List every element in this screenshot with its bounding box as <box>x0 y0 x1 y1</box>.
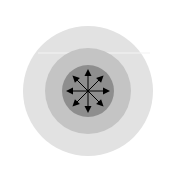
concentric-circles-diagram <box>0 0 175 175</box>
diagram-canvas <box>0 0 175 175</box>
center-dot <box>87 90 90 93</box>
expand-all-directions-icon <box>66 69 110 113</box>
